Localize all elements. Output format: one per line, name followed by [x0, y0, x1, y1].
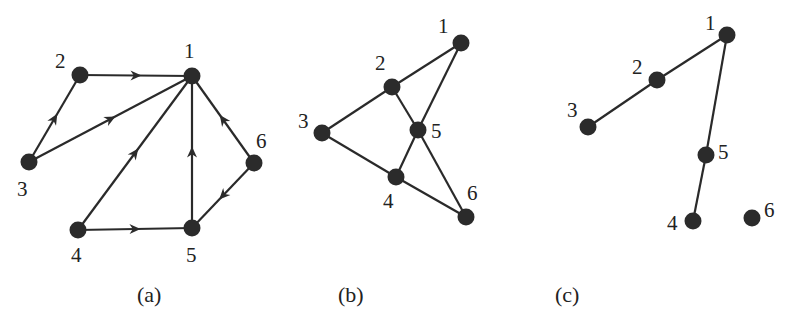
edge-c-1-2 — [657, 35, 727, 80]
node-label-b-5: 5 — [431, 119, 442, 143]
node-c-6 — [744, 210, 761, 227]
node-a-4 — [70, 222, 87, 239]
node-a-2 — [72, 67, 89, 84]
edge-b-3-4 — [322, 133, 396, 177]
node-label-a-1: 1 — [184, 39, 195, 63]
arrowhead-icon — [128, 149, 139, 161]
node-label-c-4: 4 — [667, 211, 678, 235]
edge-c-1-5 — [706, 35, 727, 155]
node-a-5 — [184, 220, 201, 237]
node-label-a-4: 4 — [71, 243, 82, 267]
edge-b-2-3 — [322, 87, 392, 133]
node-label-a-2: 2 — [55, 49, 66, 73]
node-b-1 — [453, 35, 470, 52]
captions-layer: (a) (b) (c) — [137, 282, 579, 307]
node-a-3 — [21, 154, 38, 171]
node-label-a-6: 6 — [256, 129, 267, 153]
node-b-5 — [410, 122, 427, 139]
node-label-b-4: 4 — [383, 189, 394, 213]
node-label-c-6: 6 — [764, 198, 775, 222]
node-b-4 — [388, 169, 405, 186]
node-label-c-2: 2 — [632, 55, 643, 79]
arrowhead-icon — [220, 115, 231, 127]
node-a-1 — [184, 68, 201, 85]
node-b-6 — [458, 209, 475, 226]
node-c-4 — [685, 213, 702, 230]
graph-figure: 123456123456123456 (a) (b) (c) — [0, 0, 801, 324]
node-c-2 — [649, 72, 666, 89]
caption-a: (a) — [137, 282, 161, 307]
edge-c-2-3 — [588, 80, 657, 127]
arrowheads-layer — [47, 71, 230, 235]
node-b-3 — [314, 125, 331, 142]
edge-c-5-4 — [693, 155, 706, 221]
node-c-5 — [698, 147, 715, 164]
node-a-6 — [246, 155, 263, 172]
node-label-c-3: 3 — [567, 98, 578, 122]
node-label-c-1: 1 — [705, 11, 716, 35]
node-c-3 — [580, 119, 597, 136]
caption-b: (b) — [338, 282, 364, 307]
node-label-b-1: 1 — [438, 14, 449, 38]
node-label-c-5: 5 — [718, 140, 729, 164]
node-label-b-2: 2 — [375, 51, 386, 75]
node-label-b-3: 3 — [298, 109, 309, 133]
node-c-1 — [719, 27, 736, 44]
node-label-b-6: 6 — [467, 181, 478, 205]
node-b-2 — [384, 79, 401, 96]
node-label-a-5: 5 — [186, 243, 197, 267]
node-label-a-3: 3 — [17, 177, 28, 201]
caption-c: (c) — [555, 282, 579, 307]
